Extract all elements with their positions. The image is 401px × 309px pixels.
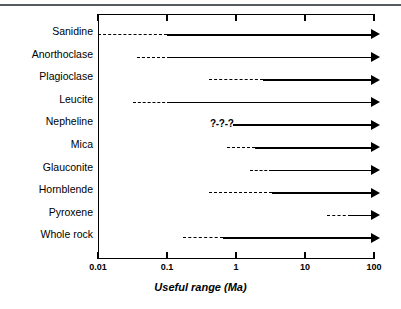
dashed-range-segment: [98, 34, 167, 35]
dashed-range-segment: [209, 192, 272, 193]
range-arrow-icon: [371, 210, 380, 220]
useful-range-chart: 0.010.1110100 SanidineAnorthoclasePlagio…: [0, 0, 401, 309]
x-tick-label-1: 1: [233, 262, 238, 272]
range-arrow-icon: [371, 75, 380, 85]
x-tick-label-100: 100: [366, 262, 381, 272]
solid-range-segment: [272, 192, 371, 194]
solid-range-segment: [272, 170, 371, 172]
dashed-range-segment: [327, 215, 351, 216]
range-row: Hornblende: [0, 183, 401, 205]
x-tick-top-0.01: [97, 14, 98, 21]
row-label-nepheline: Nepheline: [46, 115, 93, 127]
range-row: Anorthoclase: [0, 48, 401, 70]
row-label-sanidine: Sanidine: [52, 25, 93, 37]
x-tick-100: [373, 252, 374, 259]
x-tick-label-0.01: 0.01: [89, 262, 107, 272]
row-label-plagioclase: Plagioclase: [39, 70, 93, 82]
row-label-pyroxene: Pyroxene: [49, 206, 93, 218]
x-tick-top-100: [373, 14, 374, 21]
solid-range-segment: [263, 79, 371, 81]
solid-range-segment: [170, 102, 371, 104]
row-label-mica: Mica: [71, 138, 93, 150]
dashed-range-segment: [209, 79, 264, 80]
row-label-leucite: Leucite: [59, 93, 93, 105]
range-row: Sanidine: [0, 25, 401, 47]
range-row: Mica: [0, 138, 401, 160]
solid-range-segment: [170, 57, 371, 59]
dashed-range-segment: [227, 147, 255, 148]
uncertainty-marker: ?-?-?: [210, 116, 234, 132]
solid-range-segment: [167, 34, 371, 36]
solid-range-segment: [223, 237, 371, 239]
range-arrow-icon: [371, 29, 380, 39]
row-label-glauconite: Glauconite: [43, 161, 93, 173]
row-label-anorthoclase: Anorthoclase: [32, 48, 93, 60]
x-tick-0.01: [97, 252, 98, 259]
solid-range-segment: [351, 215, 371, 217]
range-row: Glauconite: [0, 161, 401, 183]
row-label-whole-rock: Whole rock: [40, 228, 93, 240]
x-tick-top-0.1: [166, 14, 167, 21]
range-arrow-icon: [371, 52, 380, 62]
x-tick-label-10: 10: [300, 262, 310, 272]
dashed-range-segment: [137, 57, 170, 58]
range-arrow-icon: [371, 233, 380, 243]
range-row: Plagioclase: [0, 70, 401, 92]
x-tick-1: [235, 252, 236, 259]
dashed-range-segment: [250, 170, 272, 171]
range-arrow-icon: [371, 165, 380, 175]
x-tick-10: [304, 252, 305, 259]
solid-range-segment: [255, 147, 371, 149]
range-row: Leucite: [0, 93, 401, 115]
row-label-hornblende: Hornblende: [39, 183, 93, 195]
dashed-range-segment: [183, 237, 223, 238]
range-row: Pyroxene: [0, 206, 401, 228]
range-row: Nepheline?-?-?: [0, 115, 401, 137]
range-arrow-icon: [371, 142, 380, 152]
x-tick-0.1: [166, 252, 167, 259]
range-arrow-icon: [371, 120, 380, 130]
x-tick-label-0.1: 0.1: [161, 262, 174, 272]
solid-range-segment: [233, 124, 371, 126]
x-tick-top-1: [235, 14, 236, 21]
x-axis-title: Useful range (Ma): [0, 281, 401, 293]
range-arrow-icon: [371, 97, 380, 107]
dashed-range-segment: [133, 102, 170, 103]
range-arrow-icon: [371, 188, 380, 198]
range-row: Whole rock: [0, 228, 401, 250]
x-tick-top-10: [304, 14, 305, 21]
